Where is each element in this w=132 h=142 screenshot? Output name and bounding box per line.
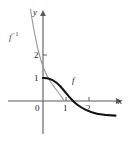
curve-label-f: f [72,76,75,85]
y-tick-label-1: 1 [34,74,39,83]
y-axis-label: y [33,8,37,17]
origin-label: 0 [35,104,40,113]
x-tick-label-1: 1 [63,104,68,113]
y-tick-label-2: 2 [34,51,39,60]
inverse-function-figure: y x 0 1 2 1 2 f f−1 [0,0,132,142]
x-axis-label: x [118,97,122,106]
plot-canvas [0,0,132,142]
x-tick-label-2: 2 [86,104,91,113]
curve-f [43,78,116,116]
f-inverse-exponent: −1 [12,30,19,37]
curve-label-f-inverse: f−1 [9,33,18,42]
